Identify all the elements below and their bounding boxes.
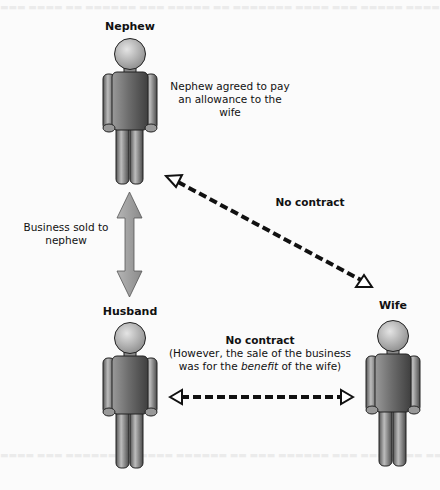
note-line: an allowance to the <box>163 93 297 106</box>
note-line: was for the benefit of the wife) <box>160 360 360 373</box>
wife-person-icon <box>363 320 423 470</box>
note-line: (However, the sale of the business <box>160 347 360 360</box>
note-line: Business sold to <box>20 221 112 234</box>
note-text: was for the <box>179 360 241 372</box>
relation-title: No contract <box>160 334 360 347</box>
note-line: Nephew agreed to pay <box>163 80 297 93</box>
nephew-label: Nephew <box>100 20 160 33</box>
husband-person-icon <box>100 322 160 472</box>
nephew-wife-relation-label: No contract <box>255 196 365 208</box>
note-line: wife <box>163 106 297 119</box>
husband-wife-relation-note: No contract (However, the sale of the bu… <box>160 334 360 373</box>
note-line: nephew <box>20 234 112 247</box>
nephew-agreement-note: Nephew agreed to pay an allowance to the… <box>163 80 297 119</box>
wife-label: Wife <box>365 299 421 312</box>
nephew-wife-dashed-arrow <box>166 175 372 287</box>
husband-wife-dashed-arrow <box>170 390 353 404</box>
business-sale-arrow <box>117 192 142 297</box>
emphasis-text: benefit <box>241 360 278 372</box>
nephew-person-icon <box>100 38 160 188</box>
husband-label: Husband <box>95 305 165 318</box>
note-text: of the wife) <box>278 360 341 372</box>
business-sold-note: Business sold to nephew <box>20 221 112 247</box>
